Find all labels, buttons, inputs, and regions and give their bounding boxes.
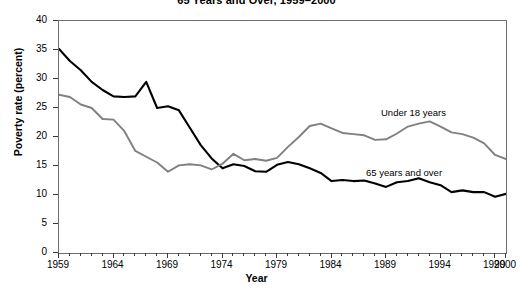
x-tick-mark <box>189 253 190 256</box>
x-tick-mark <box>472 253 473 256</box>
x-tick-mark <box>341 253 342 256</box>
x-tick-mark <box>331 253 332 258</box>
x-tick-mark <box>102 253 103 256</box>
x-tick-label: 1969 <box>147 260 187 270</box>
y-tick-mark <box>53 223 58 224</box>
x-tick-mark <box>232 253 233 256</box>
y-tick-label: 25 <box>13 102 47 112</box>
x-tick-mark <box>265 253 266 256</box>
x-tick-mark <box>429 253 430 256</box>
y-tick-mark <box>53 49 58 50</box>
x-tick-label: 1994 <box>420 260 460 270</box>
x-tick-mark <box>505 253 506 258</box>
y-tick-label: 30 <box>13 73 47 83</box>
x-tick-mark <box>123 253 124 256</box>
y-tick-mark <box>53 107 58 108</box>
x-tick-mark <box>254 253 255 256</box>
x-tick-mark <box>352 253 353 256</box>
x-tick-label: 1984 <box>311 260 351 270</box>
x-tick-mark <box>363 253 364 256</box>
x-tick-label: 1979 <box>256 260 296 270</box>
y-tick-label: 20 <box>13 131 47 141</box>
x-tick-mark <box>91 253 92 256</box>
y-tick-label: 5 <box>13 218 47 228</box>
series-label: 65 years and over <box>366 168 442 178</box>
y-tick-mark <box>53 165 58 166</box>
x-tick-mark <box>69 253 70 256</box>
y-tick-mark <box>53 20 58 21</box>
x-tick-mark <box>276 253 277 258</box>
x-tick-mark <box>298 253 299 256</box>
x-tick-mark <box>396 253 397 256</box>
x-tick-mark <box>418 253 419 256</box>
y-tick-mark <box>53 136 58 137</box>
x-tick-mark <box>440 253 441 258</box>
x-tick-mark <box>178 253 179 256</box>
chart-title: 65 Years and Over, 1959–2000 <box>0 0 513 6</box>
y-tick-label: 15 <box>13 160 47 170</box>
x-tick-mark <box>222 253 223 258</box>
x-tick-mark <box>113 253 114 258</box>
x-tick-mark <box>167 253 168 258</box>
x-tick-mark <box>320 253 321 256</box>
x-tick-label: 1974 <box>202 260 242 270</box>
x-tick-mark <box>385 253 386 258</box>
x-tick-mark <box>145 253 146 256</box>
y-tick-label: 0 <box>13 247 47 257</box>
x-tick-label: 2000 <box>485 260 521 270</box>
x-tick-mark <box>80 253 81 256</box>
x-tick-mark <box>287 253 288 256</box>
y-tick-label: 35 <box>13 44 47 54</box>
series-label: Under 18 years <box>381 108 446 118</box>
x-tick-mark <box>243 253 244 256</box>
x-tick-mark <box>461 253 462 256</box>
y-tick-mark <box>53 78 58 79</box>
x-tick-mark <box>211 253 212 256</box>
x-tick-label: 1964 <box>93 260 133 270</box>
x-tick-mark <box>134 253 135 256</box>
x-axis-title: Year <box>0 272 513 284</box>
x-tick-mark <box>483 253 484 256</box>
x-tick-mark <box>58 253 59 258</box>
y-tick-label: 10 <box>13 189 47 199</box>
x-tick-mark <box>494 253 495 258</box>
y-tick-mark <box>53 194 58 195</box>
x-tick-mark <box>374 253 375 256</box>
x-tick-mark <box>309 253 310 256</box>
x-tick-mark <box>156 253 157 256</box>
x-tick-label: 1989 <box>365 260 405 270</box>
x-tick-mark <box>200 253 201 256</box>
x-tick-mark <box>407 253 408 256</box>
plot-lines <box>59 21 506 253</box>
x-tick-label: 1959 <box>38 260 78 270</box>
x-tick-mark <box>450 253 451 256</box>
plot-area <box>58 20 507 254</box>
y-tick-label: 40 <box>13 15 47 25</box>
